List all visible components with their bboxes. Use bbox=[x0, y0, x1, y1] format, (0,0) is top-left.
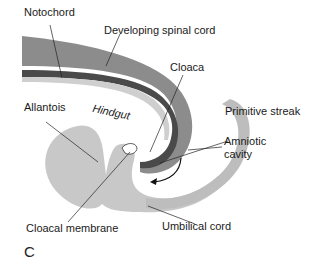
arrowhead-icon bbox=[150, 178, 157, 185]
label-primitive-streak: Primitive streak bbox=[225, 105, 300, 117]
panel-label: C bbox=[24, 243, 35, 260]
label-allantois: Allantois bbox=[24, 101, 66, 113]
label-amniotic-cavity-2: cavity bbox=[224, 148, 252, 160]
label-umbilical-cord: Umbilical cord bbox=[162, 220, 231, 232]
label-cloaca: Cloaca bbox=[170, 61, 204, 73]
label-notochord: Notochord bbox=[24, 6, 75, 18]
label-cloacal-membrane: Cloacal membrane bbox=[26, 222, 118, 234]
label-amniotic-cavity-1: Amniotic bbox=[224, 135, 266, 147]
label-developing-spinal-cord: Developing spinal cord bbox=[104, 24, 215, 36]
